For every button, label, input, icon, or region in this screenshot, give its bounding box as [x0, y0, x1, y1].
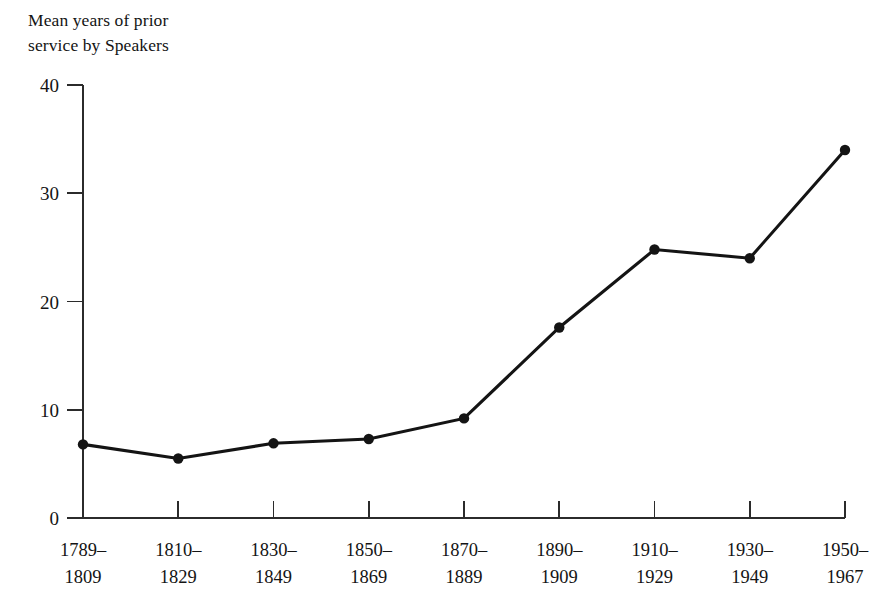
data-point: [78, 439, 88, 449]
x-tick-label: 1950–1967: [822, 540, 869, 587]
x-tick-label: 1930–1949: [727, 540, 774, 587]
y-tick-label: 30: [40, 183, 59, 204]
line-chart-plot: 010203040 1789–18091810–18291830–1849185…: [0, 0, 879, 591]
data-point: [745, 253, 755, 263]
series-line: [83, 150, 845, 459]
y-axis-tick-labels: 010203040: [40, 75, 59, 529]
x-tick-label: 1890–1909: [536, 540, 583, 587]
data-point: [459, 413, 469, 423]
data-point: [173, 453, 183, 463]
chart-axes: [83, 85, 845, 518]
chart-container: Mean years of prior service by Speakers …: [0, 0, 879, 591]
data-point: [840, 145, 850, 155]
x-tick-label: 1910–1929: [631, 540, 678, 587]
x-axis-tick-labels: 1789–18091810–18291830–18491850–18691870…: [60, 540, 869, 587]
x-tick-label: 1870–1889: [441, 540, 488, 587]
y-tick-label: 20: [40, 292, 59, 313]
data-point: [268, 438, 278, 448]
x-tick-label: 1850–1869: [346, 540, 393, 587]
x-tick-label: 1830–1849: [250, 540, 297, 587]
y-tick-label: 10: [40, 400, 59, 421]
x-tick-label: 1789–1809: [60, 540, 107, 587]
data-point: [649, 244, 659, 254]
y-tick-label: 40: [40, 75, 59, 96]
data-point: [364, 434, 374, 444]
data-point: [554, 322, 564, 332]
axis-spine: [83, 85, 845, 518]
data-series-line: [83, 150, 845, 459]
data-point-markers: [78, 145, 850, 464]
y-axis-ticks: [67, 85, 83, 518]
x-axis-ticks: [178, 501, 845, 518]
x-tick-label: 1810–1829: [155, 540, 202, 587]
y-tick-label: 0: [50, 508, 60, 529]
